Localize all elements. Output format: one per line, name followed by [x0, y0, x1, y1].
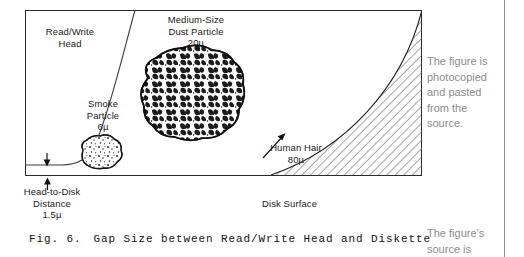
note-source-line2: source is [427, 242, 503, 257]
label-head-to-disk-size: 1.5µ [6, 209, 98, 221]
label-smoke-particle-line2: Particle [73, 110, 133, 122]
label-head-to-disk-line1: Head-to-Disk [6, 186, 98, 198]
note-source-line1: The figure’s [427, 226, 503, 242]
figure-caption: Fig. 6.Gap Size between Read/Write Head … [29, 233, 431, 245]
figure-caption-number: Fig. 6. [29, 233, 82, 245]
label-dust-particle-size: 20µ [140, 37, 252, 49]
label-head-to-disk-line2: Distance [6, 198, 98, 210]
label-smoke-particle-line1: Smoke [73, 98, 133, 110]
label-human-hair-size: 80µ [258, 154, 334, 166]
label-disk-surface: Disk Surface [262, 198, 332, 210]
page-canvas: Read/Write Head Medium-Size Dust Particl… [0, 0, 524, 257]
label-human-hair: Human Hair 80µ [258, 142, 334, 165]
note-photocopied-line4: from the [427, 101, 499, 117]
label-read-write-head-line1: Read/Write [31, 26, 109, 38]
label-smoke-particle: Smoke Particle 6µ [73, 98, 133, 133]
label-head-to-disk-distance: Head-to-Disk Distance 1.5µ [6, 186, 98, 221]
label-dust-particle: Medium-Size Dust Particle 20µ [140, 14, 252, 49]
note-source: The figure’s source is [427, 226, 503, 257]
note-photocopied-line5: source. [427, 116, 499, 132]
note-photocopied-line1: The figure is [427, 54, 499, 70]
label-disk-surface-line1: Disk Surface [262, 198, 332, 210]
note-photocopied-line2: photocopied [427, 70, 499, 86]
figure-caption-text: Gap Size between Read/Write Head and Dis… [94, 233, 432, 245]
note-photocopied-line3: and pasted [427, 85, 499, 101]
label-human-hair-line1: Human Hair [258, 142, 334, 154]
label-dust-particle-line2: Dust Particle [140, 26, 252, 38]
page-column-rule [504, 0, 505, 257]
label-smoke-particle-size: 6µ [73, 121, 133, 133]
note-photocopied: The figure is photocopied and pasted fro… [427, 54, 499, 132]
label-dust-particle-line1: Medium-Size [140, 14, 252, 26]
label-read-write-head: Read/Write Head [31, 26, 109, 49]
label-read-write-head-line2: Head [31, 38, 109, 50]
